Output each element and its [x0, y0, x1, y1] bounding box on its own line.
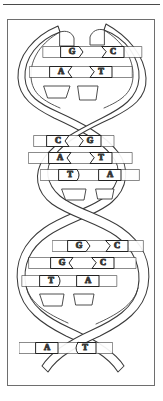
base-pair-bar	[43, 47, 142, 58]
base-letter-right: C	[110, 46, 116, 56]
dna-figure: GCATCGATTAGCGCTAAT DNA double helix	[0, 0, 163, 401]
base-pair-bar	[53, 241, 144, 252]
base-pair-row: GC	[43, 46, 142, 57]
base-pair-row: AT	[19, 342, 112, 353]
base-pair-row: TA	[41, 169, 140, 180]
base-letter-right: A	[85, 275, 92, 285]
base-letter-left: G	[69, 46, 76, 56]
base-pair-bar	[30, 67, 132, 78]
base-pair-bar	[19, 343, 112, 354]
base-letter-left: A	[57, 152, 64, 162]
base-letter-right: T	[98, 66, 104, 76]
base-letter-right: C	[100, 257, 106, 267]
base-letter-right: A	[107, 169, 114, 179]
base-letter-left: A	[58, 66, 65, 76]
base-letter-right: G	[87, 135, 94, 145]
base-letter-right: T	[82, 342, 88, 352]
base-pair-row: GC	[53, 240, 144, 251]
base-pair-row: CG	[34, 135, 114, 146]
base-pair-row: TA	[22, 275, 117, 286]
base-pair-bar	[41, 170, 140, 181]
base-letter-left: T	[67, 169, 73, 179]
base-letter-left: A	[44, 342, 51, 352]
base-letter-left: G	[76, 240, 83, 250]
ribbon-curl-top	[60, 29, 104, 46]
dna-helix-drawing: GCATCGATTAGCGCTAAT	[0, 0, 163, 401]
base-letter-left: G	[59, 257, 66, 267]
base-pair-row: GC	[29, 257, 136, 268]
base-pair-row: AT	[29, 152, 132, 163]
base-pair-bar	[29, 258, 136, 269]
base-letter-left: C	[55, 135, 61, 145]
base-letter-left: T	[48, 275, 54, 285]
base-letter-right: T	[98, 152, 104, 162]
base-pair-bar	[34, 136, 114, 147]
base-letter-right: C	[114, 240, 120, 250]
base-pair-bar	[29, 153, 132, 164]
base-pair-row: AT	[30, 66, 132, 77]
base-pair-bar	[22, 276, 117, 287]
